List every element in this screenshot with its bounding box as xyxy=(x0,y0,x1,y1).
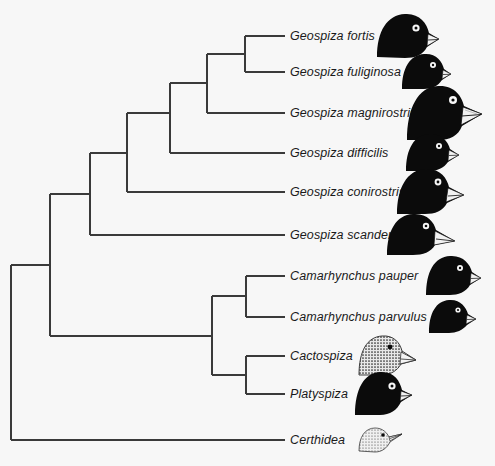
tip-label-platyspiza: Platyspiza xyxy=(290,387,348,401)
platyspiza-head-illustration xyxy=(352,369,414,419)
camarhynchus-parvulus-head-illustration xyxy=(427,298,477,336)
tip-label-certhidea: Certhidea xyxy=(290,433,345,447)
certhidea-head-illustration xyxy=(356,423,404,457)
tip-label-geospiza-fortis: Geospiza fortis xyxy=(290,29,375,43)
tip-label-cactospiza: Cactospiza xyxy=(290,349,353,363)
tip-label-geospiza-fuliginosa: Geospiza fuliginosa xyxy=(290,65,401,79)
tip-label-geospiza-difficilis: Geospiza difficilis xyxy=(290,146,388,160)
tip-label-camarhynchus-parvulus: Camarhynchus parvulus xyxy=(290,310,427,324)
tip-label-camarhynchus-pauper: Camarhynchus pauper xyxy=(290,269,418,283)
tip-label-geospiza-magnirostris: Geospiza magnirostris xyxy=(290,106,416,120)
geospiza-scandens-head-illustration xyxy=(385,211,457,259)
tip-label-geospiza-conirostris: Geospiza conirostris xyxy=(290,185,405,199)
phylogenetic-tree-figure: Geospiza fortis Geospiza fuliginosa Geos… xyxy=(0,0,495,466)
camarhynchus-pauper-head-illustration xyxy=(424,254,482,298)
